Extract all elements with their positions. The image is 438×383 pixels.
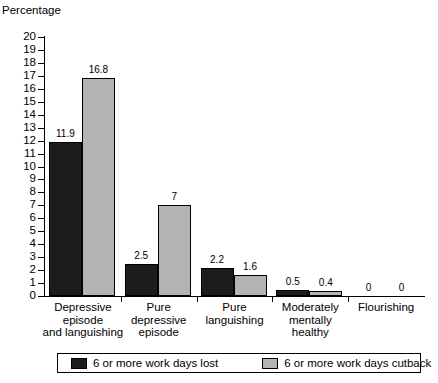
legend-swatch-days-lost [71,358,87,369]
y-axis-tick-label: 14 [0,109,36,121]
legend: 6 or more work days lost 6 or more work … [57,353,421,373]
y-axis-tick-label: 17 [0,70,36,82]
y-axis-tick-label: 12 [0,135,36,147]
y-axis-tick-label: 18 [0,57,36,69]
y-axis-tick-label: 4 [0,238,36,250]
y-axis-tick-label: 1 [0,277,36,289]
bar-value-label: 1.6 [228,262,273,272]
legend-label-days-lost: 6 or more work days lost [93,357,218,369]
y-axis-tick-label: 11 [0,148,36,160]
bar-days-lost [49,142,82,296]
y-axis-tick-label: 15 [0,96,36,108]
y-axis-tick-label: 9 [0,173,36,185]
legend-entry-days-lost[interactable]: 6 or more work days lost [71,354,218,372]
plot-area: 11.916.82.572.21.60.50.400 [44,37,424,296]
bar-days-cutback [234,275,267,296]
y-axis-tick-label: 20 [0,31,36,43]
bar-value-label: 16.8 [76,65,121,75]
y-axis-tick-label: 16 [0,83,36,95]
legend-entry-days-cutback[interactable]: 6 or more work days cutback [262,354,431,372]
y-axis-tick-label: 6 [0,212,36,224]
bar-value-label: 0 [379,283,424,293]
y-axis-tick-label: 5 [0,225,36,237]
bar-days-lost [125,264,158,296]
bar-value-label: 7 [152,192,197,202]
y-axis-tick-label: 0 [0,290,36,302]
bar-days-lost [276,290,309,296]
y-axis-tick-label: 10 [0,161,36,173]
bar-chart: Percentage 20191817161514131211109876543… [0,0,438,383]
bar-days-cutback [82,78,115,296]
legend-swatch-days-cutback [262,358,278,369]
y-axis-tick-labels: 20191817161514131211109876543210 [0,0,36,383]
y-axis-tick-label: 13 [0,122,36,134]
y-axis-tick-label: 7 [0,199,36,211]
y-axis-tick-label: 3 [0,251,36,263]
y-axis-tick-label: 19 [0,44,36,56]
x-axis-category-label: Flourishing [340,301,432,314]
bar-days-cutback [158,205,191,296]
legend-label-days-cutback: 6 or more work days cutback [284,357,431,369]
y-axis-tick-label: 2 [0,264,36,276]
bar-days-cutback [309,291,342,296]
bar-value-label: 0.4 [303,278,348,288]
y-axis-tick-label: 8 [0,186,36,198]
x-axis-line [44,296,425,297]
